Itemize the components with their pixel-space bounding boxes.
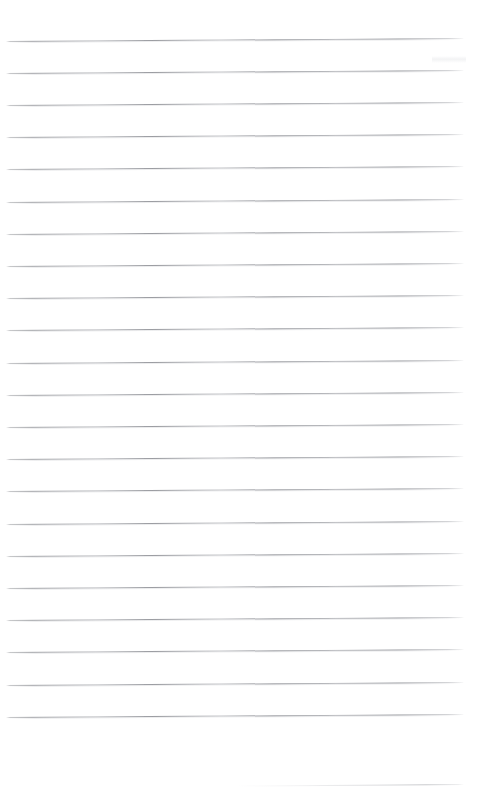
ruled-line-ink — [6, 714, 464, 718]
ruled-line — [0, 490, 486, 494]
ruled-line — [0, 136, 486, 140]
scanned-page — [0, 0, 486, 793]
ruled-line — [0, 39, 486, 43]
ruled-line — [0, 425, 486, 429]
ruled-line-ink — [6, 295, 464, 299]
ruled-lines-layer — [0, 0, 486, 793]
ruled-line — [0, 715, 486, 719]
ruled-line — [0, 683, 486, 687]
ruled-line — [0, 393, 486, 397]
ruled-line-ink — [6, 585, 464, 589]
ruled-line — [0, 522, 486, 526]
ruled-line-ink — [6, 682, 464, 686]
ruled-line-ink — [6, 166, 464, 170]
ruled-line-ink — [6, 553, 464, 557]
ruled-line — [0, 232, 486, 236]
ruled-line-ink — [6, 521, 464, 525]
ruled-line-ink — [6, 231, 464, 235]
ruled-line — [0, 361, 486, 365]
ruled-line — [0, 329, 486, 333]
ruled-line-ink — [6, 134, 464, 138]
ruled-line — [0, 586, 486, 590]
ruled-line — [0, 168, 486, 172]
ruled-line — [0, 458, 486, 462]
ruled-line — [0, 71, 486, 75]
ruled-line-ink — [6, 38, 464, 42]
ruled-line-ink — [6, 199, 464, 203]
ruled-line — [0, 785, 486, 789]
ruled-line-ink — [6, 617, 464, 621]
ruled-line-ink — [6, 784, 464, 788]
ruled-line-ink — [6, 424, 464, 428]
ruled-line-ink — [6, 456, 464, 460]
ruled-line — [0, 297, 486, 301]
ruled-line-ink — [6, 392, 464, 396]
ruled-line-ink — [6, 263, 464, 267]
ruled-line-ink — [6, 360, 464, 364]
ruled-line — [0, 554, 486, 558]
ruled-line-ink — [6, 102, 464, 106]
ruled-line — [0, 103, 486, 107]
ruled-line — [0, 264, 486, 268]
ruled-line — [0, 651, 486, 655]
ruled-line-ink — [6, 488, 464, 492]
ruled-line-ink — [6, 649, 464, 653]
ruled-line — [0, 619, 486, 623]
ruled-line-ink — [6, 327, 464, 331]
ruled-line — [0, 200, 486, 204]
ruled-line-ink — [6, 70, 464, 74]
